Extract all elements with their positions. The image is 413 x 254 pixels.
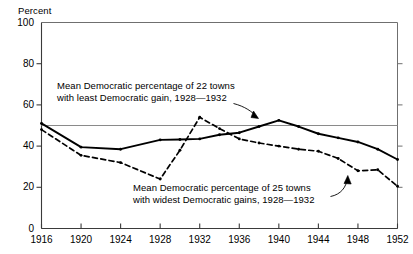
- x-tick-label: 1920: [61, 235, 101, 245]
- series-point-widest-gains: [317, 150, 320, 153]
- series-point-least-gain: [376, 148, 379, 151]
- chart-figure: Percent 020406080100 1916192019241928193…: [0, 0, 413, 254]
- annotation-widest-line2: with widest Democratic gains, 1928—1932: [133, 194, 315, 206]
- series-point-least-gain: [277, 119, 280, 122]
- series-point-least-gain: [80, 146, 83, 149]
- series-point-widest-gains: [297, 148, 300, 151]
- series-point-least-gain: [396, 158, 399, 161]
- series-point-widest-gains: [40, 128, 43, 131]
- series-point-least-gain: [337, 136, 340, 139]
- series-point-least-gain: [258, 125, 261, 128]
- series-point-least-gain: [159, 138, 162, 141]
- series-point-least-gain: [297, 125, 300, 128]
- annotation-widest-line1: Mean Democratic percentage of 25 towns: [133, 182, 315, 194]
- y-tick-label: 40: [8, 141, 34, 151]
- x-tick-label: 1928: [140, 235, 180, 245]
- series-point-least-gain: [178, 138, 181, 141]
- series-point-widest-gains: [159, 178, 162, 181]
- series-point-widest-gains: [376, 168, 379, 171]
- x-tick-label: 1940: [259, 235, 299, 245]
- series-point-widest-gains: [277, 145, 280, 148]
- series-point-widest-gains: [80, 154, 83, 157]
- x-tick-label: 1916: [22, 235, 62, 245]
- series-point-widest-gains: [218, 127, 221, 130]
- y-tick-label: 20: [8, 182, 34, 192]
- series-point-widest-gains: [337, 157, 340, 160]
- y-tick-label: 0: [8, 224, 34, 234]
- series-point-least-gain: [218, 133, 221, 136]
- annotation-widest-democratic-gains: Mean Democratic percentage of 25 towns w…: [133, 182, 315, 206]
- series-point-least-gain: [40, 122, 43, 125]
- series-point-least-gain: [198, 137, 201, 140]
- x-tick-label: 1944: [298, 235, 338, 245]
- x-tick-label: 1924: [101, 235, 141, 245]
- series-point-widest-gains: [119, 161, 122, 164]
- series-point-widest-gains: [258, 142, 261, 145]
- x-tick-label: 1952: [378, 235, 413, 245]
- x-tick-label: 1936: [219, 235, 259, 245]
- x-tick-label: 1948: [338, 235, 378, 245]
- annotation-least-line2: with least Democratic gain, 1928—1932: [57, 92, 235, 104]
- series-point-widest-gains: [178, 149, 181, 152]
- series-point-widest-gains: [356, 169, 359, 172]
- annotation-arrowhead-lower: [344, 176, 351, 185]
- y-tick-label: 60: [8, 100, 34, 110]
- series-line-least-gain: [42, 120, 398, 159]
- y-tick-label: 100: [8, 18, 34, 28]
- annotation-least-line1: Mean Democratic percentage of 22 towns: [57, 80, 235, 92]
- chart-plot-svg: [0, 0, 413, 254]
- annotation-leader-lower: [331, 178, 348, 197]
- series-point-widest-gains: [198, 116, 201, 119]
- series-point-widest-gains: [238, 137, 241, 140]
- series-point-least-gain: [238, 131, 241, 134]
- series-point-widest-gains: [396, 185, 399, 188]
- annotation-least-democratic-gain: Mean Democratic percentage of 22 towns w…: [57, 80, 235, 104]
- x-tick-label: 1932: [180, 235, 220, 245]
- series-point-least-gain: [356, 141, 359, 144]
- series-point-least-gain: [317, 132, 320, 135]
- series-point-least-gain: [119, 148, 122, 151]
- y-tick-label: 80: [8, 59, 34, 69]
